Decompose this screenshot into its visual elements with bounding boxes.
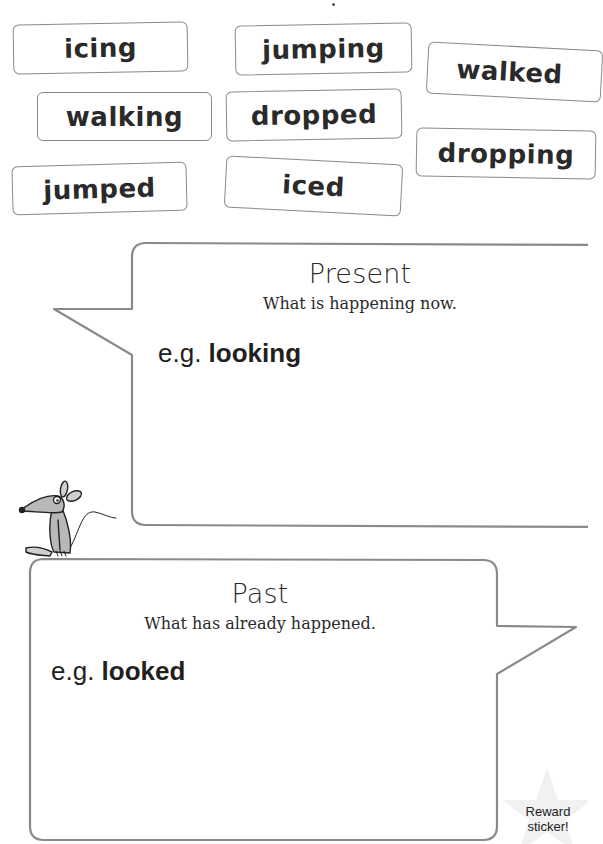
- present-subtitle: What is happening now.: [230, 294, 490, 313]
- present-example: e.g. looking: [158, 338, 301, 369]
- example-prefix: e.g.: [158, 338, 201, 368]
- past-subtitle: What has already happened.: [110, 614, 410, 633]
- example-word: looked: [102, 656, 186, 686]
- present-title: Present: [230, 258, 490, 289]
- example-prefix: e.g.: [51, 656, 94, 686]
- past-example: e.g. looked: [51, 656, 185, 687]
- past-title: Past: [130, 578, 390, 609]
- reward-sticker[interactable]: Reward sticker!: [516, 804, 580, 834]
- reward-line-1: Reward: [516, 804, 580, 819]
- reward-line-2: sticker!: [516, 819, 580, 834]
- example-word: looking: [209, 338, 301, 368]
- mouse-illustration: [20, 481, 117, 556]
